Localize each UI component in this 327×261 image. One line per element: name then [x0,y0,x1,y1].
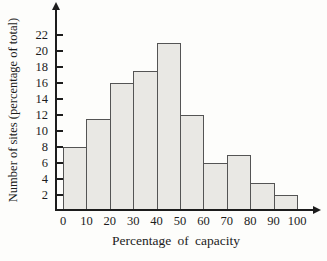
bar-80-90 [250,183,274,211]
y-tick-label-6: 6 [18,155,48,171]
y-tick-2 [57,194,63,196]
y-tick-10 [57,130,63,132]
y-tick-label-20: 20 [18,43,48,59]
y-tick-8 [57,146,63,148]
y-tick-14 [57,98,63,100]
bar-50-60 [180,115,204,211]
bar-0-10 [63,147,87,211]
y-tick-6 [57,162,63,164]
y-tick-16 [57,82,63,84]
y-tick-label-14: 14 [18,91,48,107]
y-tick-label-4: 4 [18,171,48,187]
y-tick-20 [57,50,63,52]
histogram-figure: Number of sites (percentage of total) 24… [0,0,327,261]
y-tick-label-2: 2 [18,187,48,203]
x-axis [55,209,315,211]
bar-10-20 [86,119,110,211]
y-axis-arrow-icon [52,2,60,10]
y-tick-label-8: 8 [18,139,48,155]
y-tick-label-18: 18 [18,59,48,75]
bar-20-30 [110,83,134,211]
y-axis [55,8,57,211]
x-tick-label-100: 100 [280,214,314,228]
bar-70-80 [227,155,251,211]
x-axis-arrow-icon [313,206,321,214]
y-tick-label-16: 16 [18,75,48,91]
bar-40-50 [157,43,181,211]
y-tick-label-10: 10 [18,123,48,139]
bar-60-70 [203,163,227,211]
y-tick-label-12: 12 [18,107,48,123]
y-tick-18 [57,66,63,68]
plot-area: 2468101214161820220102030405060708090100 [0,0,327,261]
x-axis-title: Percentage of capacity [56,233,296,249]
y-tick-22 [57,34,63,36]
y-tick-12 [57,114,63,116]
bar-30-40 [133,71,157,211]
y-tick-label-22: 22 [18,27,48,43]
y-tick-4 [57,178,63,180]
